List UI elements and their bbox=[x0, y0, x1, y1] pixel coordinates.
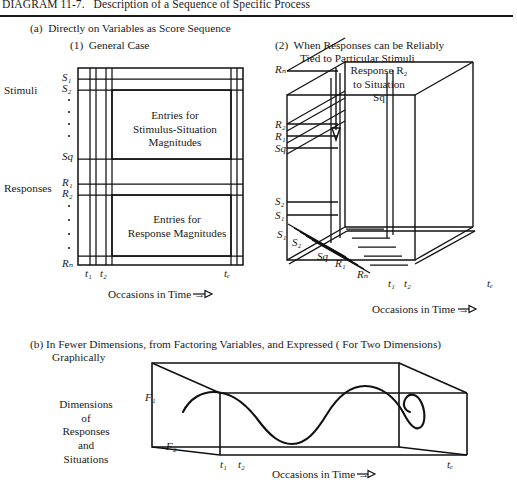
panel2-axis-label-r2: R₂ bbox=[275, 118, 286, 130]
panel1-cell-text-top: Entries for Stimulus-Situation Magnitude… bbox=[120, 109, 230, 150]
panel2-annotation: Response R₂ to Situation Sq bbox=[331, 64, 427, 105]
ellipsis-dot bbox=[68, 219, 70, 221]
panel2-axis-label-sq: Sq bbox=[275, 142, 286, 154]
section-a2-caption-line2: Tied to Particular Stimuli bbox=[300, 52, 415, 65]
panel3-side-label: Dimensions of Responses and Situations bbox=[38, 398, 134, 466]
panel3-axis-caption: Occasions in Time → bbox=[272, 468, 369, 480]
panel1-tick-t2: t₂ bbox=[100, 267, 107, 279]
panel2-axis-label-s2: S₂ bbox=[275, 195, 284, 207]
panel3-tick-te: tₑ bbox=[447, 458, 453, 470]
panel1-tick-te: tₑ bbox=[224, 267, 230, 279]
section-b-caption: (b) In Fewer Dimensions, from Factoring … bbox=[30, 338, 441, 351]
panel2-tick-te: tₑ bbox=[487, 277, 493, 289]
panel1-cell-text-bottom: Entries for Response Magnitudes bbox=[118, 213, 236, 240]
panel2-axis-caption: Occasions in Time → bbox=[372, 303, 469, 315]
ellipsis-dot bbox=[68, 135, 70, 137]
ellipsis-dot bbox=[68, 205, 70, 207]
panel1-row-label-s2: S₂ bbox=[62, 82, 71, 94]
panel1-axis-caption: Occasions in Time → bbox=[108, 288, 205, 300]
panel1-row-label-rn: Rₙ bbox=[62, 257, 73, 270]
panel2-floor-label-s2: S₂ bbox=[292, 236, 301, 248]
ellipsis-dot bbox=[68, 233, 70, 235]
section-a1-caption: (1) General Case bbox=[70, 39, 149, 52]
panel2-tick-t1: t₁ bbox=[388, 277, 395, 289]
panel2-axis-label-r1: R₁ bbox=[275, 130, 286, 142]
section-b-caption-line2: Graphically bbox=[52, 351, 105, 364]
panel3-box bbox=[152, 363, 467, 455]
ellipsis-dot bbox=[68, 247, 70, 249]
panel3-axis-label-f2: F₂ bbox=[166, 440, 177, 452]
panel1-stimuli-label: Stimuli bbox=[4, 84, 37, 97]
panel1-row-label-r2: R₂ bbox=[62, 187, 73, 199]
panel3-tick-t1: t₁ bbox=[220, 458, 227, 470]
title-divider bbox=[0, 15, 513, 17]
panel2-axis-label-rn: Rₙ bbox=[275, 63, 286, 76]
diagram-page: DIAGRAM 11-7. Description of a Sequence … bbox=[0, 0, 517, 485]
ellipsis-dot bbox=[68, 123, 70, 125]
panel2-floor-label-sq: Sq bbox=[317, 250, 328, 262]
panel1-row-label-sq: Sq bbox=[62, 150, 73, 162]
panel2-floor-stripes bbox=[288, 224, 408, 273]
ellipsis-dot bbox=[68, 111, 70, 113]
panel1-tick-t1: t₁ bbox=[85, 267, 92, 279]
ellipsis-dot bbox=[68, 99, 70, 101]
section-a-caption: (a) Directly on Variables as Score Seque… bbox=[30, 22, 231, 35]
panel2-tick-t2: t₂ bbox=[404, 277, 411, 289]
panel3-tick-t2: t₂ bbox=[238, 458, 245, 470]
panel2-floor-label-rn: Rₙ bbox=[357, 268, 368, 281]
panel2-axis-label-s1: S₁ bbox=[275, 209, 284, 221]
panel3-trajectory-curve bbox=[183, 386, 424, 444]
page-title: DIAGRAM 11-7. Description of a Sequence … bbox=[2, 0, 310, 11]
panel3-axis-label-f1: F₁ bbox=[145, 391, 156, 403]
panel2-floor-label-r1: R₁ bbox=[335, 257, 346, 269]
section-a2-caption-line1: (2) When Responses can be Reliably bbox=[275, 39, 444, 52]
panel2-floor-label-s1: S₁ bbox=[277, 228, 286, 240]
panel1-responses-label: Responses bbox=[4, 182, 52, 195]
